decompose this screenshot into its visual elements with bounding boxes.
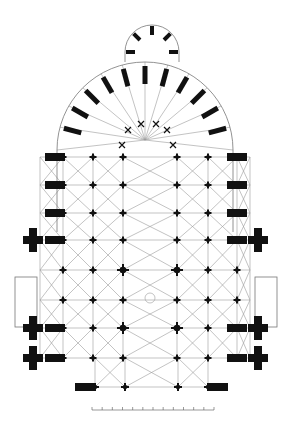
apse-buttress <box>86 91 99 104</box>
buttresses <box>23 26 268 391</box>
apse-buttress <box>192 91 205 104</box>
buttress-left <box>45 324 65 332</box>
piers <box>60 121 241 391</box>
buttress-left <box>45 354 65 362</box>
apse-buttress <box>178 77 187 93</box>
keystone <box>164 127 170 133</box>
apse-buttress <box>103 77 112 93</box>
buttress-right <box>227 181 247 189</box>
vault-ribs <box>40 62 250 387</box>
buttress-right <box>227 209 247 217</box>
buttress-right <box>227 153 247 161</box>
buttress-right <box>227 236 247 244</box>
keystone <box>153 121 159 127</box>
apse-buttress <box>202 108 218 117</box>
buttress-right <box>227 324 247 332</box>
apse-buttress <box>209 128 226 133</box>
buttress-left <box>45 236 65 244</box>
buttress-right <box>227 354 247 362</box>
buttress-left <box>45 209 65 217</box>
cathedral-floor-plan <box>0 0 290 439</box>
apse-buttress <box>162 69 167 86</box>
apse-buttress <box>72 108 88 117</box>
apse-buttress <box>64 128 81 133</box>
apse-buttress <box>123 69 128 86</box>
buttress-left <box>45 181 65 189</box>
buttress-left <box>45 153 65 161</box>
scale-bar <box>92 407 214 410</box>
